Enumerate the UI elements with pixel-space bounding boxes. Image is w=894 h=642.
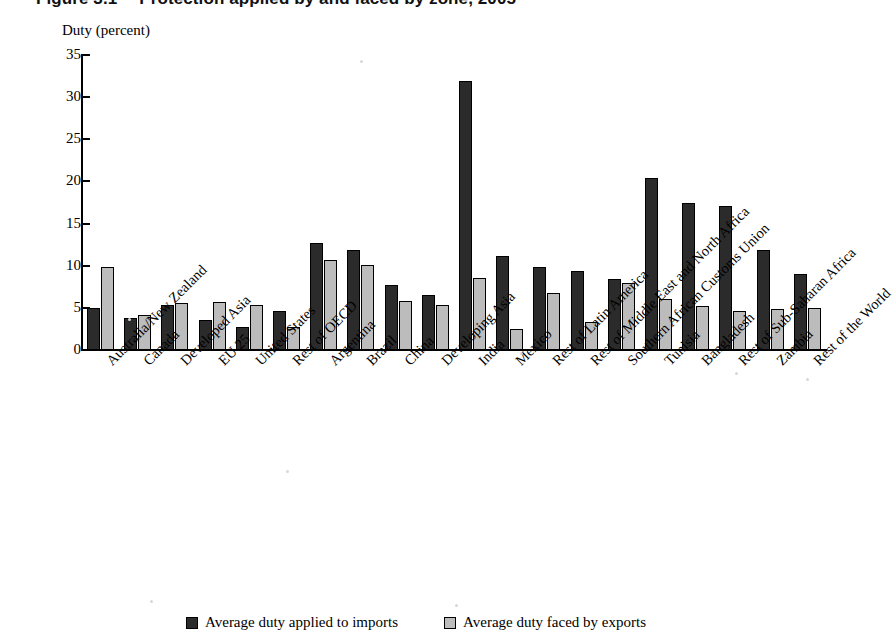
scan-artifact: [735, 372, 738, 375]
bar-applied-to-imports[interactable]: [459, 81, 472, 350]
y-axis-tick-label: 10: [51, 258, 81, 273]
bar-applied-to-imports[interactable]: [87, 308, 100, 350]
y-axis-tick-label: 5: [51, 300, 81, 315]
bar-group: [719, 55, 756, 350]
bar-faced-by-exports[interactable]: [399, 301, 412, 350]
bar-faced-by-exports[interactable]: [101, 267, 114, 350]
scan-artifact: [150, 600, 153, 603]
legend-label-faced: Average duty faced by exports: [463, 614, 646, 631]
scan-artifact: [455, 604, 458, 607]
bar-group: [87, 55, 124, 350]
y-axis-tick-label: 30: [51, 89, 81, 104]
scan-artifact: [520, 352, 523, 355]
bar-series-container: [83, 55, 827, 350]
chart-legend: Average duty applied to imports Average …: [0, 614, 832, 631]
y-axis-tick-label: 35: [51, 47, 81, 62]
bar-group: [385, 55, 422, 350]
legend-item-applied[interactable]: Average duty applied to imports: [186, 614, 398, 631]
scan-artifact: [128, 318, 131, 321]
bar-faced-by-exports[interactable]: [436, 305, 449, 350]
scan-artifact: [360, 60, 363, 63]
bar-group: [422, 55, 459, 350]
y-axis-tick-label: 20: [51, 173, 81, 188]
scan-artifact: [806, 378, 809, 381]
y-axis-tick-label: 15: [51, 216, 81, 231]
y-axis-tick-label: 25: [51, 131, 81, 146]
y-axis-tick-label: 0: [51, 342, 81, 357]
legend-swatch-icon-faced: [444, 617, 456, 629]
legend-swatch-icon-applied: [186, 617, 198, 629]
legend-label-applied: Average duty applied to imports: [205, 614, 398, 631]
legend-item-faced[interactable]: Average duty faced by exports: [444, 614, 646, 631]
bar-group: [533, 55, 570, 350]
scan-artifact: [286, 470, 289, 473]
